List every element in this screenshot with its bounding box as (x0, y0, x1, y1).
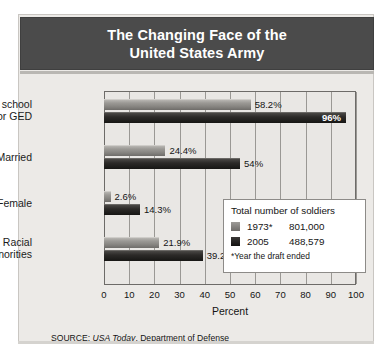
x-tick-label: 90 (319, 289, 343, 300)
legend-value-1973: 801,000 (289, 221, 324, 232)
category-label: Married (0, 151, 32, 163)
x-tick-label: 100 (344, 289, 368, 300)
legend-value-2005: 488,579 (289, 236, 324, 247)
bar-2005-0 (104, 112, 346, 123)
legend-swatch-1973-icon (231, 222, 240, 231)
bar-2005-2 (104, 204, 140, 215)
bar-2005-1 (104, 158, 240, 169)
bar-value-label: 14.3% (144, 205, 171, 215)
legend-item-2005: 2005 488,579 (231, 236, 358, 247)
bar-value-label: 2.6% (115, 192, 137, 202)
category-label-line: minorities (0, 248, 32, 260)
title-underline (20, 71, 374, 74)
x-axis-title: Percent (104, 305, 356, 317)
x-tick-label: 20 (142, 289, 166, 300)
legend-item-1973: 1973* 801,000 (231, 221, 358, 232)
chart-title-line1: The Changing Face of the (107, 26, 287, 44)
x-tick-label: 30 (168, 289, 192, 300)
bar-value-label: 96% (322, 113, 341, 123)
bar-2005-3 (104, 250, 203, 261)
bar-value-label: 24.4% (169, 146, 196, 156)
x-tick-label: 70 (268, 289, 292, 300)
category-label-line: Racial (0, 236, 32, 248)
category-label: Female (0, 197, 32, 209)
chart-legend: Total number of soldiers 1973* 801,000 2… (223, 199, 366, 273)
legend-year-2005: 2005 (247, 236, 289, 247)
category-label-line: Female (0, 197, 32, 209)
x-tick-label: 80 (294, 289, 318, 300)
category-label-line: High school (0, 98, 32, 110)
bar-value-label: 21.9% (163, 238, 190, 248)
bar-1973-3 (104, 237, 159, 248)
x-tick-label: 10 (117, 289, 141, 300)
legend-year-1973: 1973* (247, 221, 289, 232)
category-label-line: Married (0, 151, 32, 163)
chart-figure: The Changing Face of the United States A… (18, 14, 374, 344)
bar-1973-1 (104, 145, 165, 156)
category-label: Racialminorities (0, 236, 32, 260)
bar-value-label: 58.2% (255, 100, 282, 110)
x-tick-label: 60 (243, 289, 267, 300)
chart-title: The Changing Face of the United States A… (20, 17, 374, 70)
category-label-line: diploma or GED (0, 110, 32, 122)
bar-1973-2 (104, 191, 111, 202)
bar-1973-0 (104, 99, 251, 110)
legend-swatch-2005-icon (231, 237, 240, 246)
bottom-rule (18, 341, 374, 344)
x-tick-label: 0 (92, 289, 116, 300)
x-tick-label: 40 (193, 289, 217, 300)
legend-footnote: *Year the draft ended (231, 251, 358, 261)
x-tick-label: 50 (218, 289, 242, 300)
legend-title: Total number of soldiers (231, 205, 358, 216)
bar-value-label: 54% (244, 159, 263, 169)
chart-title-line2: United States Army (107, 44, 287, 62)
category-label: High schooldiploma or GED (0, 98, 32, 122)
